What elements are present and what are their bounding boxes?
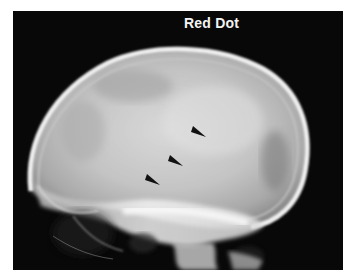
figure-label: Red Dot	[184, 15, 239, 31]
xray-image-frame: Red Dot	[13, 11, 343, 270]
skull-xray-image	[13, 11, 343, 270]
